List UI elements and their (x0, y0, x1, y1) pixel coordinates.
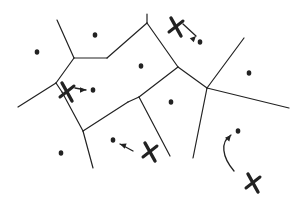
voronoi-edge (207, 38, 244, 88)
site-dot (111, 137, 116, 143)
diagram-svg (0, 0, 301, 198)
voronoi-edge (83, 102, 128, 131)
cross-mark-icon (143, 143, 157, 161)
voronoi-edge (62, 92, 83, 131)
voronoi-edge (207, 88, 289, 108)
arrow-icon (75, 87, 86, 93)
site-dot (247, 70, 252, 76)
site-dot (169, 99, 174, 105)
site-dot (35, 49, 40, 55)
site-dot (139, 63, 144, 69)
site-dot (236, 128, 241, 134)
cross-mark-icon (246, 174, 260, 192)
arrow-icon (224, 133, 234, 171)
voronoi-edges (18, 14, 289, 168)
arrow-icon (119, 141, 133, 151)
voronoi-diagram (0, 0, 301, 198)
site-dot (91, 87, 96, 93)
cross-mark-icon (169, 18, 183, 36)
site-dot (93, 32, 98, 38)
voronoi-edge (57, 20, 74, 58)
voronoi-edge (56, 58, 74, 83)
site-dot (198, 39, 203, 45)
site-dot (59, 150, 64, 156)
voronoi-edge (107, 23, 147, 58)
voronoi-edge (128, 97, 139, 102)
voronoi-edge (178, 67, 207, 88)
voronoi-edge (193, 88, 207, 158)
voronoi-edge (18, 83, 56, 107)
arrow-icon (183, 24, 198, 42)
voronoi-edge (83, 131, 93, 168)
voronoi-edge (139, 67, 178, 97)
